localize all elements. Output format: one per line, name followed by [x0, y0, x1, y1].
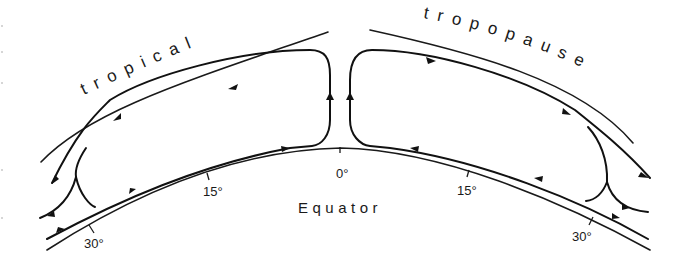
lat-label-center-0: 0°	[336, 166, 348, 181]
right-hadley-cell	[350, 50, 650, 239]
title-word-tropical: tropical	[77, 30, 201, 98]
arrow-left-rising	[326, 92, 334, 100]
title-word-tropopause: tropopause	[422, 3, 596, 74]
lat-label-left-30: 30°	[84, 236, 104, 251]
arrow-right-upper-2	[562, 108, 571, 115]
lat-label-right-30: 30°	[572, 229, 592, 244]
margin-marks	[1, 25, 3, 219]
arrow-left-lower-2	[129, 188, 136, 194]
lat-label-right-15: 15°	[457, 183, 477, 198]
arrow-right-upper-1	[426, 57, 436, 64]
latitude-ticks	[89, 147, 593, 233]
tick-left-15	[207, 173, 209, 180]
arrow-right-rising	[346, 92, 354, 100]
lat-label-left-15: 15°	[203, 184, 223, 199]
arrow-right-lower-exit	[612, 213, 620, 219]
arrow-right-lower-2	[534, 176, 543, 182]
tick-left-30	[89, 225, 94, 233]
arrow-left-upper-2	[113, 113, 121, 121]
title-word-tropopause-path: tropopause	[422, 3, 596, 74]
equator-label: Equator	[298, 199, 382, 216]
hadley-circulation-diagram: 30° 15° 0° 15° 30° Equator tropical trop…	[0, 0, 682, 265]
title-word-tropical-path: tropical	[77, 30, 201, 98]
left-hadley-cell	[40, 50, 330, 239]
arrow-left-upper-1	[228, 84, 238, 90]
